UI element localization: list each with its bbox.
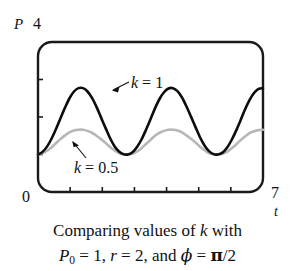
caption-line2-c: = <box>192 246 210 265</box>
leader-arrow-k05 <box>72 141 79 147</box>
caption-r-symbol: r <box>110 246 117 265</box>
curve-label-k05-value: = 0.5 <box>81 159 118 176</box>
curve-label-k1-value: = 1 <box>138 74 163 91</box>
caption-line2-b: = 2, and <box>117 246 181 265</box>
annotation-leader-lines <box>72 82 129 158</box>
caption-phi-symbol: ϕ <box>181 245 193 265</box>
curve-group <box>38 88 263 155</box>
curve-label-k1: k = 1 <box>131 75 163 91</box>
caption-line2-a: = 1, <box>75 246 110 265</box>
caption-line-1: Comparing values of k with <box>0 219 295 243</box>
caption-pi-symbol: π <box>210 245 222 265</box>
figure-container: P 4 0 7 t k = 1 k = 0.5 Comparing values… <box>0 0 295 271</box>
figure-caption: Comparing values of k with P0 = 1, r = 2… <box>0 219 295 270</box>
caption-P-symbol: P <box>59 246 69 265</box>
caption-line1-b: with <box>207 221 241 240</box>
plot-area <box>0 0 295 225</box>
caption-line-2: P0 = 1, r = 2, and ϕ = π/2 <box>0 243 295 270</box>
caption-line1-a: Comparing values of <box>53 221 200 240</box>
curve-label-k05: k = 0.5 <box>74 160 118 176</box>
caption-line2-d: /2 <box>223 246 236 265</box>
curve-k-1 <box>38 88 263 155</box>
